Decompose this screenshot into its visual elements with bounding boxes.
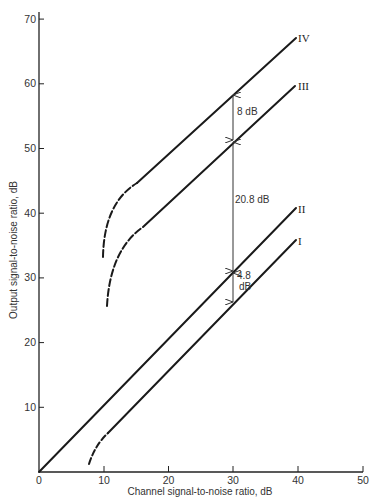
curve-i-dashed	[89, 433, 108, 464]
curve-label-ii: II	[298, 203, 306, 215]
curve-iv-solid	[137, 38, 296, 183]
annotation-48db-unit: dB	[239, 281, 252, 292]
y-tick-label: 10	[24, 401, 36, 413]
x-tick-label: 40	[292, 474, 304, 486]
axes	[39, 12, 363, 472]
curve-label-iv: IV	[298, 32, 310, 44]
annotation-48db-value: 4.8	[237, 270, 251, 281]
x-ticks	[104, 466, 363, 472]
annotation-8db: 8 dB	[237, 106, 258, 117]
curve-i-solid	[108, 240, 296, 433]
chart: 10 20 30 40 50 60 70 0 10 20 30 40 50 Ch…	[0, 0, 380, 500]
x-tick-label: 0	[36, 474, 42, 486]
y-tick-label: 30	[24, 271, 36, 283]
x-tick-labels: 0 10 20 30 40 50	[36, 474, 369, 486]
curve-iv-dashed	[103, 183, 137, 257]
y-tick-label: 70	[24, 13, 36, 25]
annotation-208db: 20.8 dB	[235, 194, 270, 205]
x-axis-title: Channel signal-to-noise ratio, dB	[127, 486, 272, 497]
y-ticks	[39, 19, 44, 407]
curve-iii-dashed	[107, 227, 143, 306]
y-tick-label: 20	[24, 336, 36, 348]
y-tick-label: 40	[24, 207, 36, 219]
x-tick-label: 10	[98, 474, 110, 486]
y-tick-label: 60	[24, 77, 36, 89]
curves	[39, 38, 296, 472]
y-axis-title: Output signal-to-noise ratio, dB	[8, 181, 19, 319]
curve-ii-solid	[39, 208, 296, 472]
curve-label-iii: III	[298, 80, 309, 92]
y-tick-label: 50	[24, 142, 36, 154]
x-tick-label: 30	[227, 474, 239, 486]
x-tick-label: 50	[357, 474, 369, 486]
x-tick-label: 20	[163, 474, 175, 486]
curve-label-i: I	[298, 235, 302, 247]
y-tick-labels: 10 20 30 40 50 60 70	[24, 13, 36, 413]
